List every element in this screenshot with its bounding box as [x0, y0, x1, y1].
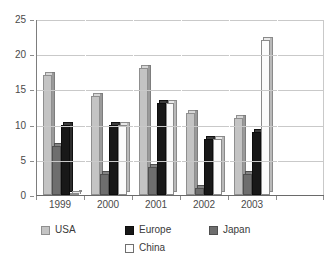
legend-item-europe[interactable]: Europe [125, 224, 209, 236]
legend-label: Europe [139, 224, 171, 236]
category-separator [85, 20, 86, 195]
bar-face [148, 167, 157, 195]
bar-face [213, 139, 222, 195]
legend-swatch-icon [125, 244, 134, 253]
y-tick-label: 0 [20, 191, 26, 201]
category-separator [277, 20, 278, 195]
bar-china[interactable] [213, 139, 222, 195]
x-tick-label: 2001 [132, 198, 180, 214]
bar-group-bars [180, 20, 228, 195]
y-tick-mark [30, 90, 34, 91]
x-tick-label: 2003 [228, 198, 276, 214]
legend-label: China [139, 242, 165, 254]
bar-europe[interactable] [61, 125, 70, 195]
bar-europe[interactable] [204, 139, 213, 195]
bar-face [166, 103, 175, 195]
plot-wrapper: 0510152025 19992000200120022003 [0, 0, 334, 212]
legend-item-usa[interactable]: USA [41, 224, 125, 236]
bar-side [195, 110, 198, 192]
bar-japan[interactable] [243, 174, 252, 195]
bar-group-bars [37, 20, 85, 195]
x-tick-label: 1999 [36, 198, 84, 214]
category-separator [133, 20, 134, 195]
bar-japan[interactable] [100, 174, 109, 195]
plot-area [36, 20, 324, 196]
bar-face [61, 125, 70, 195]
bar-group-bars [133, 20, 181, 195]
legend-item-japan[interactable]: Japan [209, 224, 293, 236]
bar-face [43, 75, 52, 195]
category-separator [229, 20, 230, 195]
bar-face [139, 68, 148, 195]
y-tick-mark [30, 196, 34, 197]
y-tick-mark [30, 55, 34, 56]
bar-group [180, 20, 228, 195]
bar-face [204, 139, 213, 195]
y-tick-label: 10 [15, 121, 26, 131]
bar-face [118, 125, 127, 195]
x-axis: 19992000200120022003 [36, 198, 324, 214]
bar-usa[interactable] [43, 75, 52, 195]
bar-face [52, 146, 61, 195]
legend-swatch-icon [209, 226, 218, 235]
bar-face [70, 193, 79, 195]
bar-group-bars [228, 20, 276, 195]
bar-europe[interactable] [157, 103, 166, 195]
legend-label: USA [55, 224, 76, 236]
y-axis: 0510152025 [0, 0, 30, 212]
bar-face [261, 40, 270, 195]
bar-face [243, 174, 252, 195]
bar-face [252, 132, 261, 195]
bar-usa[interactable] [234, 118, 243, 195]
bar-usa[interactable] [91, 96, 100, 195]
bar-japan[interactable] [52, 146, 61, 195]
bar-side [70, 122, 73, 192]
bar-face [157, 103, 166, 195]
bar-group [37, 20, 85, 195]
bar-group [228, 20, 276, 195]
y-tick-label: 20 [15, 50, 26, 60]
category-separator [181, 20, 182, 195]
bar-group [85, 20, 133, 195]
bar-face [109, 125, 118, 195]
bar-face [100, 174, 109, 195]
bar-group [276, 20, 324, 195]
bar-group [133, 20, 181, 195]
bar-group-bars [85, 20, 133, 195]
bar-side [127, 122, 130, 192]
bar-china[interactable] [166, 103, 175, 195]
bar-side [79, 190, 82, 192]
bar-side [222, 136, 225, 192]
y-tick-label: 25 [15, 15, 26, 25]
bar-usa[interactable] [139, 68, 148, 195]
x-tick-label [276, 198, 324, 214]
bar-japan[interactable] [195, 188, 204, 195]
x-tick-label: 2002 [180, 198, 228, 214]
y-tick-label: 15 [15, 85, 26, 95]
x-tick-label: 2000 [84, 198, 132, 214]
bar-group-bars [276, 20, 324, 195]
legend-swatch-icon [41, 226, 50, 235]
bar-face [234, 118, 243, 195]
bar-europe[interactable] [109, 125, 118, 195]
bar-china[interactable] [70, 194, 79, 196]
legend-item-china[interactable]: China [125, 242, 209, 254]
y-tick-label: 5 [20, 156, 26, 166]
legend-swatch-icon [125, 226, 134, 235]
bar-china[interactable] [118, 125, 127, 195]
bar-japan[interactable] [148, 167, 157, 195]
bar-face [91, 96, 100, 195]
y-tick-mark [30, 161, 34, 162]
bar-side [270, 37, 273, 192]
legend-label: Japan [223, 224, 250, 236]
bar-face [195, 188, 204, 195]
chart-legend: USAEuropeJapanChina [0, 224, 334, 254]
bar-chart: 0510152025 19992000200120022003 USAEurop… [0, 0, 334, 275]
y-tick-mark [30, 20, 34, 21]
y-tick-mark [30, 126, 34, 127]
bar-europe[interactable] [252, 132, 261, 195]
bar-side [174, 100, 177, 192]
bar-china[interactable] [261, 40, 270, 195]
